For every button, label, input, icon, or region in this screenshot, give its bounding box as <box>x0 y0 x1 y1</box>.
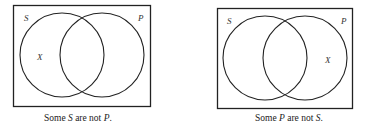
label-s: S <box>24 13 29 23</box>
circle-p <box>263 16 347 100</box>
caption-diagram-1: Some S are not P. <box>44 113 112 123</box>
caption-text: are not <box>73 113 104 123</box>
caption-text: Some <box>44 113 68 123</box>
circle-s <box>223 16 307 100</box>
caption-text: Some <box>255 113 279 123</box>
caption-diagram-2: Some P are not S. <box>255 113 323 123</box>
caption-text: are not <box>285 113 316 123</box>
label-p: P <box>137 13 144 23</box>
venn-diagrams: S P X S P X <box>0 0 367 127</box>
venn-diagram-some-s-not-p: S P X <box>14 6 151 107</box>
marker-x: X <box>324 55 331 65</box>
marker-x: X <box>36 52 43 62</box>
label-s: S <box>227 16 232 26</box>
circle-p <box>60 13 144 97</box>
label-p: P <box>340 16 347 26</box>
venn-diagram-some-p-not-s: S P X <box>218 9 353 109</box>
universe-box <box>218 9 353 109</box>
circle-s <box>20 13 104 97</box>
caption-text: . <box>109 113 111 123</box>
caption-text: . <box>320 113 322 123</box>
